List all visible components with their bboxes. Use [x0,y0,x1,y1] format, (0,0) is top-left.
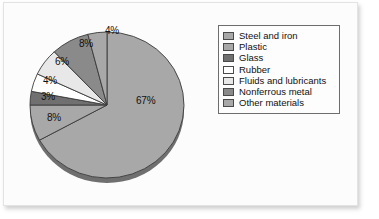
pie-svg [18,15,196,193]
legend-item-label: Rubber [239,65,270,75]
pie-graphic: 67% 8% 3% 4% 6% 8% 4% [18,15,196,193]
legend-item-label: Steel and iron [239,31,298,41]
legend-item-label: Plastic [239,42,267,52]
legend-item-label: Other materials [239,98,304,108]
pie-chart-plot: 67% 8% 3% 4% 6% 8% 4% Steel and ironPlas… [4,3,357,205]
slice-label-glass: 3% [41,91,55,102]
legend-swatch-icon [223,66,234,74]
slice-label-other-materials: 4% [105,25,119,36]
legend-swatch-icon [223,99,234,107]
legend-item[interactable]: Glass [223,53,334,64]
slice-label-nonferrous-metal: 8% [79,38,93,49]
slice-label-steel-and-iron: 67% [136,95,155,106]
legend-swatch-icon [223,54,234,62]
chart-card: 67% 8% 3% 4% 6% 8% 4% Steel and ironPlas… [3,2,358,206]
slice-label-plastic: 8% [47,112,61,123]
legend-swatch-icon [223,32,234,40]
legend-item[interactable]: Nonferrous metal [223,86,334,97]
legend-item-label: Glass [239,53,263,63]
legend-swatch-icon [223,88,234,96]
legend-item[interactable]: Other materials [223,98,334,109]
pie-slices [30,32,184,178]
legend-item-label: Fluids and lubricants [239,76,326,86]
legend-item[interactable]: Rubber [223,64,334,75]
legend-item[interactable]: Plastic [223,41,334,52]
slice-label-rubber: 4% [43,75,57,86]
chart-legend: Steel and ironPlasticGlassRubberFluids a… [218,25,340,114]
legend-swatch-icon [223,77,234,85]
legend-item[interactable]: Fluids and lubricants [223,75,334,86]
slice-label-fluids-and-lubricants: 6% [55,56,69,67]
legend-item-label: Nonferrous metal [239,87,312,97]
legend-swatch-icon [223,43,234,51]
legend-item[interactable]: Steel and iron [223,30,334,41]
